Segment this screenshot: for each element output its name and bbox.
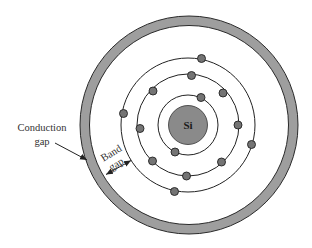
electron-middle: [219, 89, 227, 97]
electron-outer: [248, 141, 256, 149]
silicon-atom-diagram: Si Conduction gap Band gap: [0, 0, 312, 248]
electron-outer: [120, 110, 128, 118]
electron-outer: [198, 55, 206, 63]
electron-middle: [149, 157, 157, 165]
band-gap-annotation: Band gap: [99, 142, 131, 174]
electron-middle: [149, 87, 157, 95]
conduction-gap-annotation: Conduction gap: [18, 122, 88, 160]
nucleus: Si: [169, 106, 208, 145]
electron-middle: [218, 158, 226, 166]
conduction-gap-label-line1: Conduction: [18, 122, 68, 133]
electron-middle: [183, 172, 191, 180]
electron-middle: [234, 121, 242, 129]
conduction-gap-label-line2: gap: [34, 136, 49, 147]
electron-middle: [188, 72, 196, 80]
nucleus-label: Si: [183, 119, 192, 131]
electron-inner: [171, 148, 179, 156]
electron-outer: [171, 188, 179, 196]
electron-inner: [197, 94, 205, 102]
electron-middle: [136, 125, 144, 133]
